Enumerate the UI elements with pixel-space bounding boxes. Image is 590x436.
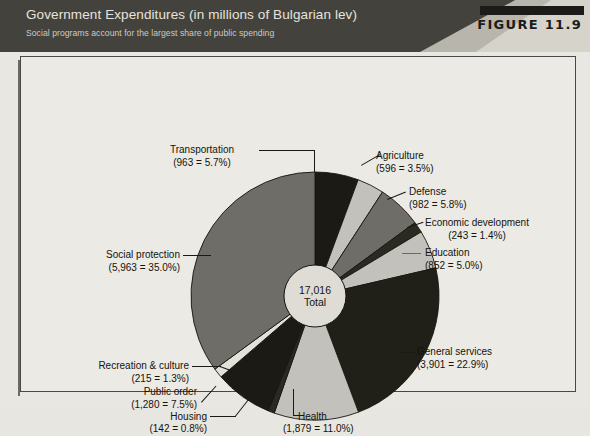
label-housing-detail-wrap: (142 = 0.8%) — [113, 423, 207, 436]
label-general-services-name: General services — [417, 346, 492, 359]
leader-transportation-v — [314, 150, 315, 172]
pie-chart: 17,016 Total — [189, 170, 441, 422]
label-defense-name: Defense — [409, 186, 467, 199]
pie-chart-svg — [189, 170, 441, 422]
leader-education — [402, 253, 421, 254]
label-health: Health — [298, 411, 327, 424]
label-economic-development-detail: (243 = 1.4%) — [425, 230, 529, 243]
page-title: Government Expenditures (in millions of … — [26, 7, 357, 22]
label-general-services: General services (3,901 = 22.9%) — [417, 346, 492, 371]
chart-panel: 17,016 Total Transportation (963 = 5.7%)… — [20, 56, 576, 392]
label-transportation-name: Transportation — [147, 144, 257, 157]
figure-header: Government Expenditures (in millions of … — [0, 0, 590, 52]
label-public-order-detail: (1,280 = 7.5%) — [91, 399, 197, 412]
label-economic-development-name: Economic development — [425, 217, 529, 230]
leader-health-h — [293, 415, 299, 416]
label-social-protection-detail: (5,963 = 35.0%) — [46, 262, 180, 275]
leader-recreation-h — [192, 366, 221, 367]
label-social-protection-name: Social protection — [46, 249, 180, 262]
label-public-order-name: Public order — [91, 386, 197, 399]
label-recreation-culture-name: Recreation & culture — [59, 360, 189, 373]
label-defense-detail: (982 = 5.8%) — [409, 199, 467, 212]
leader-health-v — [293, 389, 294, 415]
label-housing-detail: (142 = 0.8%) — [113, 423, 207, 436]
label-agriculture: Agriculture (596 = 3.5%) — [376, 150, 434, 175]
label-health-detail-wrap: (1,879 = 11.0%) — [283, 423, 354, 436]
leader-social-protection — [183, 255, 211, 256]
label-housing: Housing — [121, 411, 207, 424]
label-general-services-detail: (3,901 = 22.9%) — [417, 359, 492, 372]
label-education-name: Education — [425, 247, 483, 260]
label-agriculture-detail: (596 = 3.5%) — [376, 163, 434, 176]
leader-transportation-h — [259, 150, 315, 151]
label-social-protection: Social protection (5,963 = 35.0%) — [46, 249, 180, 274]
page-subtitle: Social programs account for the largest … — [26, 28, 274, 38]
label-recreation-culture: Recreation & culture (215 = 1.3%) — [59, 360, 189, 385]
label-transportation-detail: (963 = 5.7%) — [147, 157, 257, 170]
label-health-name: Health — [298, 411, 327, 424]
leader-general-services — [402, 352, 415, 353]
label-recreation-culture-detail: (215 = 1.3%) — [59, 373, 189, 386]
label-education: Education (852 = 5.0%) — [425, 247, 483, 272]
label-economic-development: Economic development (243 = 1.4%) — [425, 217, 529, 242]
label-health-detail: (1,879 = 11.0%) — [283, 423, 354, 436]
label-housing-name: Housing — [121, 411, 207, 424]
figure-number: FIGURE 11.9 — [477, 17, 582, 32]
label-defense: Defense (982 = 5.8%) — [409, 186, 467, 211]
leader-housing-h — [210, 416, 236, 417]
pie-center-hub — [284, 265, 346, 327]
label-transportation: Transportation (963 = 5.7%) — [147, 144, 257, 169]
label-education-detail: (852 = 5.0%) — [425, 260, 483, 273]
figure-tag-bar — [480, 6, 584, 15]
label-public-order: Public order (1,280 = 7.5%) — [91, 386, 197, 411]
label-agriculture-name: Agriculture — [376, 150, 434, 163]
